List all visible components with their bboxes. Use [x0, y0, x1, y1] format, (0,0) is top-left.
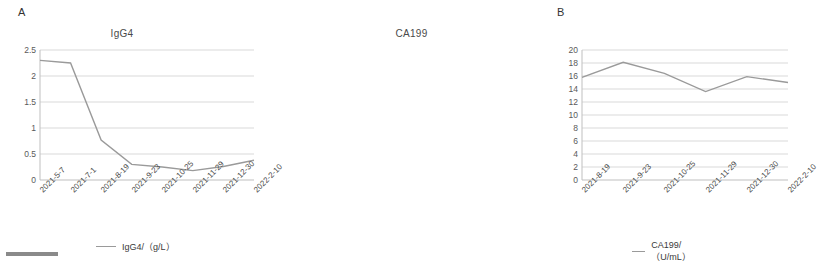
data-series-line: [582, 62, 788, 91]
y-axis-tick-label: 1.5: [24, 97, 36, 107]
y-axis-tick-label: 0.5: [24, 149, 36, 159]
y-axis-tick-label: 14: [569, 84, 579, 94]
legend-label-b: CA199/（U/mL）: [651, 240, 697, 263]
y-axis-tick-label: 1: [31, 123, 36, 133]
legend-b: CA199/（U/mL）: [632, 240, 698, 263]
panel-letter-b: B: [557, 6, 564, 18]
y-axis-tick-label: 10: [569, 110, 579, 120]
legend-line-icon-a: [96, 246, 116, 247]
y-axis-tick-label: 18: [569, 58, 579, 68]
y-axis-tick-label: 8: [573, 123, 578, 133]
y-axis-tick-label: 6: [573, 136, 578, 146]
legend-label-a: IgG4/（g/L）: [122, 240, 175, 253]
chart-panel-b: B CA199 02468101214161820 2021-8-192021-…: [272, 0, 539, 259]
legend-line-icon-b: [632, 251, 645, 252]
legend-a: IgG4/（g/L）: [96, 240, 175, 253]
chart-title-a: IgG4: [0, 28, 258, 39]
y-axis-tick-label: 20: [569, 45, 579, 55]
y-axis-tick-label: 0: [31, 175, 36, 184]
chart-title-b: CA199: [278, 28, 545, 39]
y-axis-tick-label: 2.5: [24, 45, 36, 55]
plot-area-b: 02468101214161820: [560, 44, 792, 184]
x-axis-labels-b: 2021-8-192021-9-232021-10-252021-11-2920…: [560, 186, 796, 238]
chart-panel-a: A IgG4 00.511.522.5 2021-5-72021-7-12021…: [0, 0, 272, 259]
y-axis-tick-label: 0: [573, 175, 578, 184]
footer-rule: [6, 252, 58, 256]
y-axis-tick-label: 2: [31, 71, 36, 81]
y-axis-tick-label: 4: [573, 149, 578, 159]
x-axis-labels-a: 2021-5-72021-7-12021-8-192021-9-232021-1…: [14, 186, 264, 238]
panel-letter-a: A: [18, 6, 25, 18]
y-axis-tick-label: 16: [569, 71, 579, 81]
y-axis-tick-label: 2: [573, 162, 578, 172]
y-axis-tick-label: 12: [569, 97, 579, 107]
